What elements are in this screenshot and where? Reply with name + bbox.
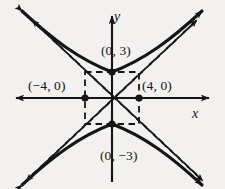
label-left-point: (−4, 0) (28, 79, 66, 93)
point-right (135, 94, 142, 101)
y-axis-label: y (114, 10, 120, 24)
point-left (81, 94, 88, 101)
label-right-point: (4, 0) (142, 79, 172, 93)
point-top-vertex (108, 68, 115, 75)
x-axis-label: x (192, 107, 198, 121)
label-top-vertex: (0, 3) (101, 44, 131, 58)
hyperbola-figure: (0, 3) (0, −3) (−4, 0) (4, 0) y x (0, 0, 225, 189)
point-bottom-vertex (108, 120, 115, 127)
label-bottom-vertex: (0, −3) (100, 149, 138, 163)
